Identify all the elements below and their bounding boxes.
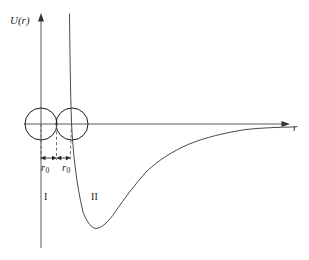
y-axis-label: U(r) (10, 15, 30, 26)
distance-label-r0-second: r0 (62, 163, 70, 174)
dimension-arrowhead-second-left (56, 156, 61, 160)
x-axis (24, 121, 290, 127)
potential-energy-curve (70, 14, 295, 229)
distance-label-r0-first-subscript: 0 (45, 166, 49, 175)
y-axis-arrowhead (38, 13, 44, 22)
dimension-arrows (41, 156, 71, 160)
distance-label-r0-first: r0 (41, 163, 49, 174)
potential-energy-figure: U(r) r r0 r0 I II (0, 0, 309, 260)
figure-canvas (0, 0, 309, 260)
distance-label-r0-second-subscript: 0 (66, 166, 70, 175)
region-label-two: II (91, 192, 98, 202)
x-axis-label: r (293, 122, 297, 133)
drop-line-right (70, 124, 71, 160)
x-axis-arrowhead (282, 121, 291, 127)
region-label-one: I (44, 192, 48, 202)
